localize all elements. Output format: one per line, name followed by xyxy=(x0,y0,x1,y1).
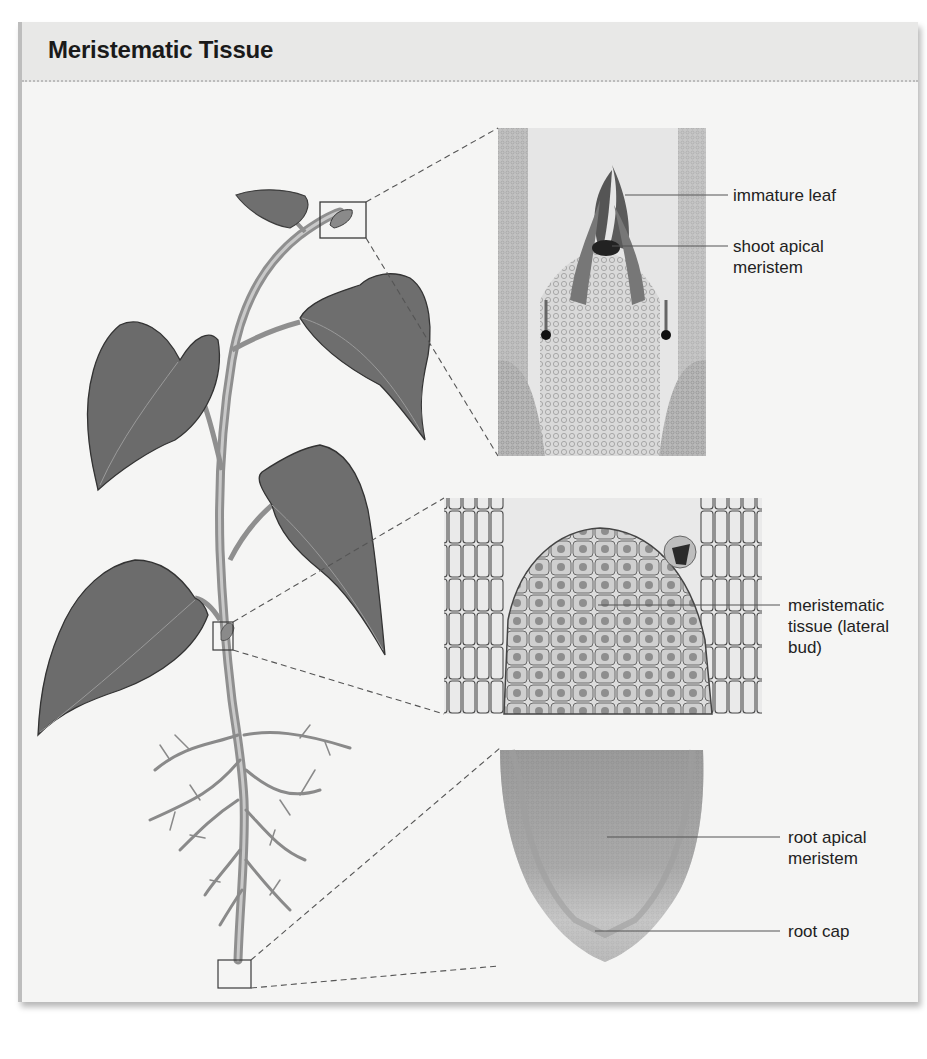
label-shoot-apical-meristem: shoot apical meristem xyxy=(733,236,824,278)
label-root-apical-meristem: root apical meristem xyxy=(788,827,866,869)
label-root-cap: root cap xyxy=(788,921,849,942)
lateral-bud-micrograph xyxy=(444,498,762,714)
label-immature-leaf: immature leaf xyxy=(733,185,836,206)
plant-illustration xyxy=(38,128,500,988)
root-tip-micrograph xyxy=(500,750,703,962)
shoot-tip-micrograph xyxy=(498,128,706,456)
root-tip-box xyxy=(218,960,251,988)
label-lateral-bud-meristem: meristematic tissue (lateral bud) xyxy=(788,595,889,658)
diagram-illustration xyxy=(0,0,927,1059)
